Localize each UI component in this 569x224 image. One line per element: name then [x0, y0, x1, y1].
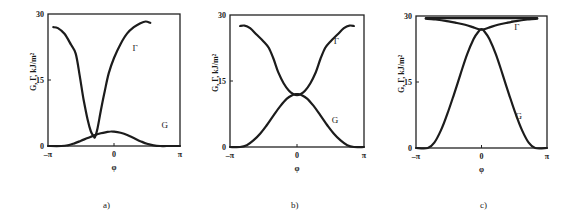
curve-g — [230, 94, 364, 147]
panel-caption-a: a) — [103, 200, 110, 210]
curve-label-g: G — [516, 111, 523, 121]
curve-gamma — [53, 21, 150, 137]
curve-g — [416, 29, 547, 148]
curve-label-gamma: Γ — [334, 36, 339, 46]
x-tick-label: π — [178, 150, 183, 159]
x-tick-label: –π — [225, 151, 235, 160]
y-axis-label: G, Γ, kJ/m² — [397, 54, 406, 93]
x-axis-label: φ — [479, 165, 484, 174]
curve-label-g: G — [162, 120, 169, 130]
chart-panel-b: 01530–π0πφG, Γ, kJ/m²ΓG — [211, 11, 367, 173]
x-tick-label: π — [545, 152, 550, 161]
panel-caption-b: b) — [291, 200, 299, 210]
x-tick-label: 0 — [112, 150, 116, 159]
x-tick-label: –π — [411, 152, 421, 161]
panel-caption-c: c) — [480, 200, 487, 210]
plot-frame — [416, 16, 547, 148]
y-tick-label: 30 — [218, 11, 226, 20]
x-tick-label: –π — [43, 150, 53, 159]
plot-frame — [230, 15, 364, 147]
curve-label-g: G — [332, 115, 339, 125]
x-axis-label: φ — [295, 164, 300, 173]
chart-panel-c: 01530–π0πφG, Γ, kJ/m²ΓG — [397, 12, 550, 174]
x-tick-label: π — [362, 151, 367, 160]
curve-label-gamma: Γ — [132, 43, 137, 53]
chart-panel-a: 01530–π0πφG, Γ, kJ/m²ΓG — [29, 10, 183, 172]
y-tick-label: 30 — [36, 10, 44, 19]
curve-label-gamma: Γ — [514, 22, 519, 32]
x-tick-label: 0 — [295, 151, 299, 160]
y-axis-label: G, Γ, kJ/m² — [211, 53, 220, 92]
y-tick-label: 30 — [404, 12, 412, 21]
figure: 01530–π0πφG, Γ, kJ/m²ΓG01530–π0πφG, Γ, k… — [0, 0, 569, 224]
plots-svg: 01530–π0πφG, Γ, kJ/m²ΓG01530–π0πφG, Γ, k… — [0, 0, 569, 224]
x-tick-label: 0 — [480, 152, 484, 161]
y-axis-label: G, Γ, kJ/m² — [29, 52, 38, 91]
x-axis-label: φ — [112, 163, 117, 172]
plot-frame — [48, 14, 180, 146]
curve-gamma — [426, 19, 537, 30]
